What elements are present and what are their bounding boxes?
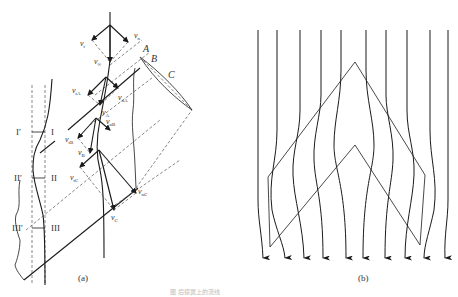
streamline-6 xyxy=(363,30,374,258)
label-v-n: vn xyxy=(134,31,141,41)
label-v-C: vC xyxy=(111,213,119,223)
label-v-nA: vnA xyxy=(118,93,128,103)
airfoil-chord-dash xyxy=(140,57,192,110)
streamline-4 xyxy=(314,30,323,258)
point-label-C: C xyxy=(168,69,175,80)
root-streamline-curve xyxy=(33,79,52,285)
streamline-10 xyxy=(445,30,448,258)
figure-caption-cutoff: 图 后掠翼上的流线 xyxy=(170,287,220,296)
wing-leading-edge-root-segment xyxy=(40,141,55,153)
streamline-3 xyxy=(293,30,304,258)
label-v-t: vt xyxy=(80,39,86,49)
swept-wing-planform xyxy=(268,62,425,247)
panel-b: (b) xyxy=(258,30,448,283)
panel-a: I′ I II′ II III′ III xyxy=(12,12,192,285)
label-v-nB: vnB xyxy=(106,117,116,127)
section-label-III: III xyxy=(51,223,60,233)
streamline-7 xyxy=(385,30,393,258)
panel-b-caption: (b) xyxy=(358,273,369,283)
vector-v-tA-arrow xyxy=(88,77,106,95)
wing-trailing-edge xyxy=(24,188,138,280)
wing-tip-chord-line xyxy=(132,68,136,188)
section-label-III-prime: III′ xyxy=(12,223,23,233)
sweep-dash-line-6 xyxy=(115,160,180,205)
section-label-I-prime: I′ xyxy=(16,127,21,137)
vector-v-t-arrow xyxy=(92,25,110,40)
streamline-2 xyxy=(271,30,285,258)
label-v-tB: vtB xyxy=(65,135,74,145)
point-label-B: B xyxy=(151,53,157,64)
vector-v-n-arrow xyxy=(110,25,128,42)
panel-a-caption: (a) xyxy=(78,273,88,283)
streamline-5 xyxy=(334,30,346,258)
label-v-tC: vtC xyxy=(70,173,79,183)
label-v-B: vB xyxy=(78,148,86,158)
sweep-dash-line-5 xyxy=(136,110,192,188)
label-v-tA: vtA xyxy=(72,86,81,96)
streamline-9 xyxy=(424,30,435,258)
section-label-II-prime: II′ xyxy=(14,173,22,183)
label-v-nC: vnC xyxy=(138,187,148,197)
section-label-I: I xyxy=(51,127,54,137)
point-label-A: A xyxy=(142,43,150,54)
construction-dash xyxy=(110,42,128,62)
swept-wing-streamline-figure: I′ I II′ II III′ III xyxy=(0,0,458,297)
label-v-inf: v∞ xyxy=(94,57,102,67)
streamline-1 xyxy=(258,30,263,258)
section-label-II: II xyxy=(51,173,57,183)
construction-dash xyxy=(114,193,136,210)
